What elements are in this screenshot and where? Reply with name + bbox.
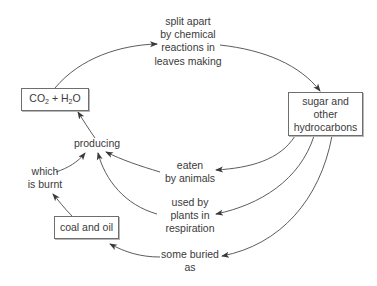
split-line-2: by chemical bbox=[153, 28, 223, 41]
arrow-producing-to-co2 bbox=[78, 112, 95, 138]
split-line-1: split apart bbox=[153, 15, 223, 28]
node-sugar-hydrocarbons: sugar and other hydrocarbons bbox=[288, 92, 363, 136]
producing-text: producing bbox=[74, 137, 120, 149]
sugar-line-3: hydrocarbons bbox=[294, 121, 358, 134]
respiration-line-1: used by bbox=[160, 196, 220, 209]
eaten-line-2: by animals bbox=[160, 172, 220, 185]
label-which-is-burnt: which is burnt bbox=[20, 165, 70, 191]
co2-h2o-text: CO2 + H2O bbox=[29, 92, 80, 108]
sugar-line-2: other bbox=[314, 108, 338, 121]
arrow-buried-to-coal bbox=[110, 244, 160, 257]
split-line-3: reactions in bbox=[153, 41, 223, 54]
arrow-co2-to-split bbox=[55, 44, 157, 88]
buried-line-1: some buried bbox=[155, 248, 225, 261]
buried-line-2: as bbox=[155, 261, 225, 274]
respiration-line-3: respiration bbox=[160, 222, 220, 235]
eaten-line-1: eaten bbox=[160, 159, 220, 172]
arrow-sugar-to-respiration bbox=[216, 136, 314, 214]
node-coal-oil: coal and oil bbox=[54, 216, 119, 239]
arrow-sugar-to-eaten bbox=[216, 136, 295, 170]
sugar-line-1: sugar and bbox=[302, 95, 349, 108]
split-line-4: leaves making bbox=[153, 55, 223, 68]
coal-oil-text: coal and oil bbox=[60, 221, 113, 234]
label-eaten-by-animals: eaten by animals bbox=[160, 159, 220, 185]
burnt-line-2: is burnt bbox=[20, 178, 70, 191]
arrow-eaten-to-producing bbox=[106, 152, 160, 172]
respiration-line-2: plants in bbox=[160, 209, 220, 222]
label-producing: producing bbox=[72, 137, 122, 150]
node-co2-h2o: CO2 + H2O bbox=[21, 88, 89, 111]
label-some-buried: some buried as bbox=[155, 248, 225, 274]
arrow-split-to-sugar bbox=[220, 45, 320, 91]
label-split-apart: split apart by chemical reactions in lea… bbox=[153, 15, 223, 68]
arrow-coal-to-burnt bbox=[53, 194, 72, 216]
label-used-by-plants: used by plants in respiration bbox=[160, 196, 220, 236]
burnt-line-1: which bbox=[20, 165, 70, 178]
arrow-respiration-to-producing bbox=[98, 153, 157, 214]
